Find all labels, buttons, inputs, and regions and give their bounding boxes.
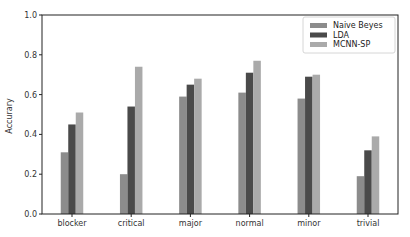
bar-mcnn-sp-critical xyxy=(135,67,143,214)
x-tick-label: critical xyxy=(118,219,145,228)
bar-lda-major xyxy=(187,85,195,214)
bar-mcnn-sp-minor xyxy=(313,75,321,214)
bar-lda-critical xyxy=(127,107,135,214)
x-axis-ticks: blockercriticalmajornormalminortrivial xyxy=(57,214,379,228)
bar-lda-trivial xyxy=(364,150,372,214)
legend: Naive BeyesLDAMCNN-SP xyxy=(303,17,395,53)
x-tick-label: major xyxy=(179,219,203,228)
legend-label: MCNN-SP xyxy=(333,40,370,49)
bar-naive-beyes-major xyxy=(179,97,187,214)
bar-chart: 0.00.20.40.60.81.0 blockercriticalmajorn… xyxy=(0,0,410,237)
bar-mcnn-sp-trivial xyxy=(372,136,380,214)
bar-mcnn-sp-blocker xyxy=(76,113,84,214)
legend-label: LDA xyxy=(333,31,349,40)
legend-swatch xyxy=(310,23,327,28)
x-tick-label: normal xyxy=(236,219,264,228)
y-tick-label: 0.6 xyxy=(24,91,37,100)
x-tick-label: minor xyxy=(297,219,321,228)
bar-naive-beyes-normal xyxy=(238,93,246,214)
bar-mcnn-sp-normal xyxy=(253,61,261,214)
bar-naive-beyes-blocker xyxy=(61,152,69,214)
bar-naive-beyes-minor xyxy=(298,99,306,214)
bar-lda-minor xyxy=(305,77,313,214)
y-tick-label: 0.8 xyxy=(24,51,37,60)
legend-swatch xyxy=(310,42,327,47)
bar-lda-normal xyxy=(246,73,254,214)
bar-naive-beyes-trivial xyxy=(357,176,365,214)
y-axis-label: Accurary xyxy=(5,98,14,134)
x-tick-label: blocker xyxy=(57,219,87,228)
x-tick-label: trivial xyxy=(357,219,380,228)
bar-lda-blocker xyxy=(68,124,76,214)
y-tick-label: 1.0 xyxy=(24,11,37,20)
legend-swatch xyxy=(310,33,327,38)
y-tick-label: 0.0 xyxy=(24,210,37,219)
y-tick-label: 0.4 xyxy=(24,130,37,139)
legend-label: Naive Beyes xyxy=(333,21,383,30)
bar-naive-beyes-critical xyxy=(120,174,128,214)
bar-mcnn-sp-major xyxy=(194,79,202,214)
y-tick-label: 0.2 xyxy=(24,170,37,179)
y-axis-ticks: 0.00.20.40.60.81.0 xyxy=(24,11,42,219)
bars-layer xyxy=(61,61,380,214)
